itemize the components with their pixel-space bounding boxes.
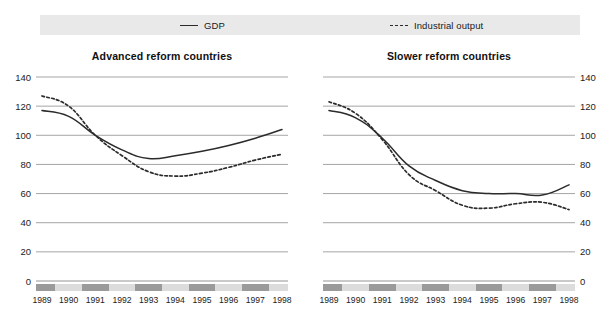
x-axis-band — [242, 284, 269, 291]
x-axis-tick-label: 1989 — [314, 294, 344, 306]
x-axis-tick-label: 1991 — [367, 294, 397, 306]
y-axis-tick-label: 140 — [580, 72, 596, 83]
x-axis-band — [162, 284, 189, 291]
x-axis-tick-label: 1990 — [341, 294, 371, 306]
x-axis-band — [556, 284, 575, 291]
x-axis-band-strip — [36, 284, 288, 291]
series-line-gdp — [329, 111, 569, 196]
chart-title-right: Slower reform countries — [323, 48, 575, 64]
x-axis-band — [215, 284, 242, 291]
solid-line-icon — [180, 25, 198, 26]
x-axis-tick-label: 1990 — [54, 294, 84, 306]
y-axis-tick-label: 100 — [15, 130, 31, 141]
x-axis-labels: 1989199019911992199319941995199619971998 — [323, 294, 575, 306]
x-axis-band — [135, 284, 162, 291]
x-axis-tick-label: 1998 — [267, 294, 297, 306]
chart-panel-advanced-reform-countries: Advanced reform countries 14012010080604… — [36, 48, 288, 293]
y-axis-tick-label: 40 — [580, 217, 591, 228]
x-axis-band-strip — [323, 284, 575, 291]
x-axis-band — [189, 284, 216, 291]
plot-area-left: 1401201008060402001989199019911992199319… — [36, 73, 288, 293]
y-axis-tick-label: 120 — [15, 101, 31, 112]
y-axis-tick-label: 100 — [580, 130, 596, 141]
dashed-line-icon — [390, 25, 408, 26]
legend-label-industrial-output: Industrial output — [414, 20, 483, 31]
x-axis-band — [109, 284, 136, 291]
y-axis-tick-label: 80 — [20, 159, 31, 170]
x-axis-tick-label: 1992 — [107, 294, 137, 306]
y-axis-tick-label: 40 — [20, 217, 31, 228]
chart-panel-slower-reform-countries: Slower reform countries 1401201008060402… — [323, 48, 575, 293]
x-axis-band — [342, 284, 369, 291]
x-axis-band — [36, 284, 55, 291]
x-axis-band — [529, 284, 556, 291]
x-axis-tick-label: 1993 — [421, 294, 451, 306]
x-axis-tick-label: 1989 — [27, 294, 57, 306]
y-axis-tick-label: 120 — [580, 101, 596, 112]
y-axis-tick-label: 60 — [20, 188, 31, 199]
x-axis-tick-label: 1995 — [187, 294, 217, 306]
legend-item-gdp: GDP — [180, 15, 225, 35]
x-axis-band — [369, 284, 396, 291]
y-axis-tick-label: 140 — [15, 72, 31, 83]
plot-area-right: 1401201008060402001989199019911992199319… — [323, 73, 575, 293]
y-axis-tick-label: 20 — [20, 246, 31, 257]
x-axis-tick-label: 1994 — [160, 294, 190, 306]
y-axis-tick-label: 20 — [580, 246, 591, 257]
x-axis-band — [323, 284, 342, 291]
x-axis-tick-label: 1994 — [447, 294, 477, 306]
x-axis-tick-label: 1997 — [527, 294, 557, 306]
legend-label-gdp: GDP — [204, 20, 225, 31]
chart-legend: GDP Industrial output — [40, 15, 580, 35]
y-axis-tick-label: 60 — [580, 188, 591, 199]
chart-svg — [323, 73, 575, 293]
x-axis-band — [502, 284, 529, 291]
x-axis-tick-label: 1995 — [474, 294, 504, 306]
x-axis-tick-label: 1996 — [501, 294, 531, 306]
x-axis-tick-label: 1998 — [554, 294, 584, 306]
x-axis-band — [269, 284, 288, 291]
x-axis-tick-label: 1996 — [214, 294, 244, 306]
x-axis-band — [422, 284, 449, 291]
y-axis-tick-label: 0 — [26, 276, 31, 287]
x-axis-band — [55, 284, 82, 291]
x-axis-band — [396, 284, 423, 291]
x-axis-tick-label: 1991 — [80, 294, 110, 306]
x-axis-band — [82, 284, 109, 291]
x-axis-labels: 1989199019911992199319941995199619971998 — [36, 294, 288, 306]
chart-title-left: Advanced reform countries — [36, 48, 288, 64]
x-axis-tick-label: 1993 — [134, 294, 164, 306]
series-line-gdp — [42, 111, 282, 159]
x-axis-tick-label: 1992 — [394, 294, 424, 306]
chart-svg — [36, 73, 288, 293]
legend-item-industrial-output: Industrial output — [390, 15, 483, 35]
x-axis-band — [476, 284, 503, 291]
x-axis-band — [449, 284, 476, 291]
y-axis-tick-label: 80 — [580, 159, 591, 170]
y-axis-tick-label: 0 — [580, 276, 585, 287]
x-axis-tick-label: 1997 — [240, 294, 270, 306]
